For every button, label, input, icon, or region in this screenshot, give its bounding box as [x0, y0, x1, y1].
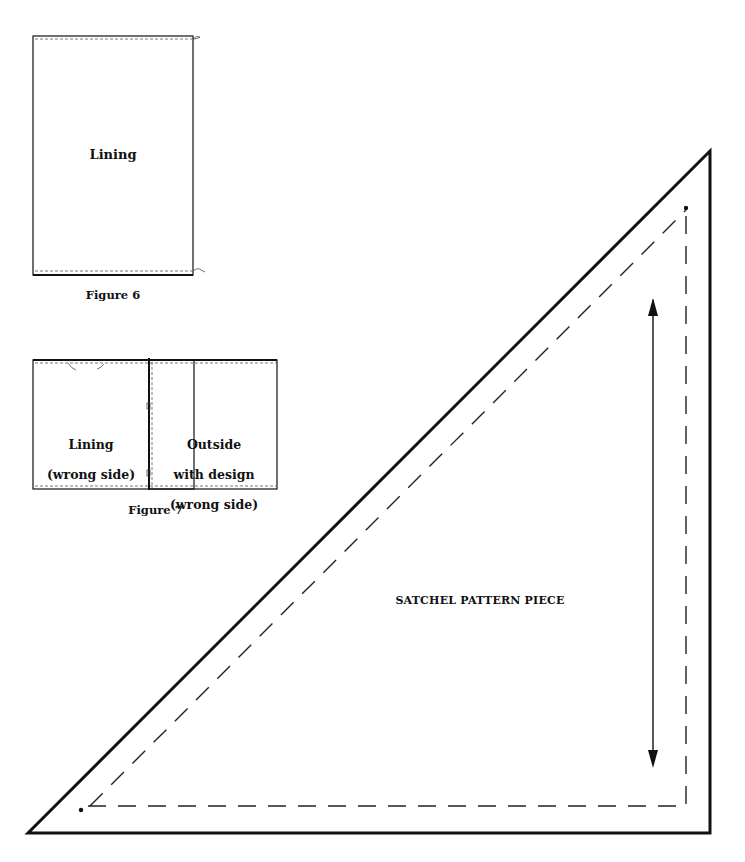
- grainline-arrow-icon: [648, 298, 658, 768]
- figure-6-caption: Figure 6: [33, 288, 193, 302]
- corner-dot-bottom: [79, 808, 83, 812]
- figure-7-caption: Figure 7: [33, 503, 278, 517]
- corner-dot-top: [684, 206, 688, 210]
- figure-7-left-label: Lining (wrong side): [33, 422, 149, 497]
- outside-label: Outside: [151, 437, 277, 452]
- figure-6-lining-label: Lining: [33, 147, 193, 162]
- pattern-title: SATCHEL PATTERN PIECE: [380, 594, 580, 607]
- wrong-side-label: (wrong side): [33, 467, 149, 482]
- with-design-label: with design: [151, 467, 277, 482]
- lining-label: Lining: [33, 437, 149, 452]
